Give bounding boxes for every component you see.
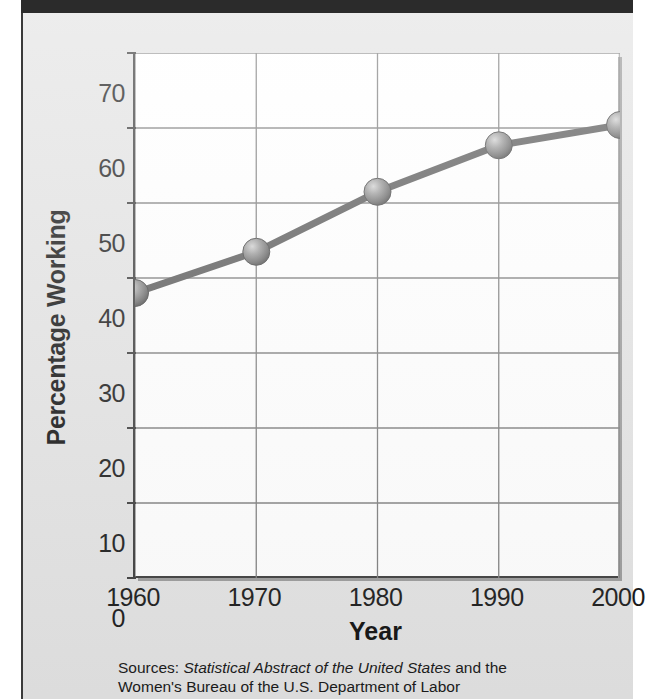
source-note: Sources: Statistical Abstract of the Uni… bbox=[118, 658, 618, 696]
y-tick-mark bbox=[127, 202, 136, 204]
y-tick-mark bbox=[127, 127, 136, 129]
top-header-bar bbox=[21, 0, 633, 13]
y-tick-label: 40 bbox=[63, 304, 125, 333]
y-tick-label: 20 bbox=[63, 454, 125, 483]
y-tick-mark bbox=[127, 277, 136, 279]
x-axis-ticks: 19601970198019902000 bbox=[23, 583, 635, 617]
source-suffix: and the bbox=[451, 659, 507, 676]
x-axis-label: Year bbox=[133, 617, 618, 646]
y-tick-mark bbox=[127, 502, 136, 504]
x-tick-label: 1980 bbox=[349, 583, 403, 612]
x-tick-label: 2000 bbox=[591, 583, 645, 612]
y-tick-mark bbox=[127, 52, 136, 54]
y-tick-mark bbox=[127, 427, 136, 429]
y-tick-mark bbox=[127, 577, 136, 579]
chart-figure: 010203040506070 19601970198019902000 Per… bbox=[0, 0, 653, 699]
y-tick-label: 50 bbox=[63, 229, 125, 258]
y-tick-label: 60 bbox=[63, 154, 125, 183]
y-axis-ticks: 010203040506070 bbox=[23, 53, 635, 578]
y-tick-label: 30 bbox=[63, 379, 125, 408]
source-prefix: Sources: bbox=[118, 659, 183, 676]
chart-panel: 010203040506070 19601970198019902000 Per… bbox=[21, 13, 633, 699]
x-tick-label: 1990 bbox=[470, 583, 524, 612]
y-axis-label: Percentage Working bbox=[42, 148, 71, 508]
source-line-1: Sources: Statistical Abstract of the Uni… bbox=[118, 658, 618, 677]
x-tick-label: 1970 bbox=[227, 583, 281, 612]
y-tick-label: 70 bbox=[63, 79, 125, 108]
y-tick-label: 10 bbox=[63, 529, 125, 558]
source-title: Statistical Abstract of the United State… bbox=[183, 659, 450, 676]
x-tick-label: 1960 bbox=[106, 583, 160, 612]
source-line-2: Women's Bureau of the U.S. Department of… bbox=[118, 677, 618, 696]
y-tick-mark bbox=[127, 352, 136, 354]
